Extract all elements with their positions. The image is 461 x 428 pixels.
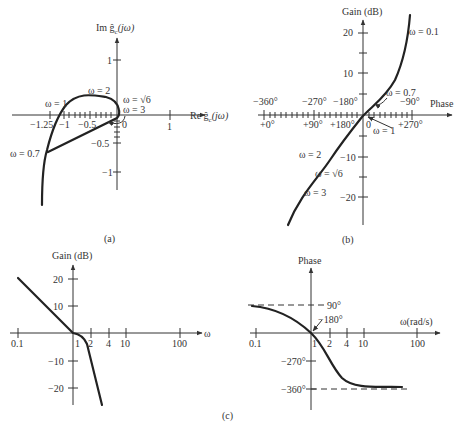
tick-label: 0.1: [11, 338, 24, 349]
panel-b-caption: (b): [342, 234, 354, 246]
tick-label: +90°: [303, 119, 323, 130]
annotation-omega-3: ω = 3: [304, 187, 326, 198]
tick-label: 1: [107, 55, 112, 66]
panel-a-nyquist-curve: [42, 95, 119, 205]
annotation-omega-2: ω = 2: [299, 149, 321, 160]
figure-canvas: Im ĝc(jω) Re ĝc(jω) −1.25 −1 −0.5 0 1 1 …: [0, 0, 461, 428]
annotation-omega-1: ω = 1: [373, 125, 395, 136]
panel-a-x-label: Re ĝc(jω): [190, 110, 229, 124]
tick-label: −180°: [318, 314, 343, 325]
tick-label: 1: [75, 338, 80, 349]
annotation-omega-0-1: ω = 0.1: [409, 26, 439, 37]
tick-label: −1: [59, 119, 70, 130]
tick-label: 4: [344, 338, 349, 349]
tick-label: −270°: [302, 96, 327, 107]
tick-label: −180°: [333, 96, 358, 107]
annotation-omega-3: ω = 3: [123, 104, 145, 115]
tick-label: −270°: [281, 356, 306, 367]
tick-label: 10: [358, 338, 368, 349]
panel-c-bode-phase: Phase ω(rad/s) 90° −180° −270° −360° 0.1…: [248, 255, 440, 410]
tick-label: −0.5: [78, 119, 96, 130]
annotation-omega-1: ω = 1: [45, 98, 67, 109]
tick-label: −1: [102, 167, 113, 178]
panel-b-nichols: Gain (dB) Phase 20 10 −10 −20 −360° −270…: [253, 6, 454, 246]
tick-label: +180°: [330, 119, 355, 130]
annotation-omega-0-7: ω = 0.7: [386, 87, 416, 98]
tick-label: 2: [327, 338, 332, 349]
tick-label: −0.5: [91, 138, 109, 149]
panel-a-caption: (a): [104, 233, 115, 245]
tick-label: 100: [172, 338, 187, 349]
tick-label: +270°: [398, 119, 423, 130]
panel-c-phase-x-label: ω(rad/s): [400, 316, 433, 328]
tick-label: −20: [48, 383, 64, 394]
panel-c-gain-y-label: Gain (dB): [52, 250, 92, 262]
panel-a-nyquist: Im ĝc(jω) Re ĝc(jω) −1.25 −1 −0.5 0 1 1 …: [10, 22, 229, 245]
tick-label: 0.1: [249, 338, 262, 349]
panel-c-phase-y-label: Phase: [298, 255, 322, 266]
tick-label: −10: [340, 152, 356, 163]
tick-label: −10: [48, 356, 64, 367]
tick-label: 90°: [327, 300, 341, 311]
tick-label: −20: [340, 192, 356, 203]
panel-b-y-label: Gain (dB): [342, 6, 382, 18]
tick-label: −360°: [281, 384, 306, 395]
annotation-omega-0-7: ω = 0.7: [10, 148, 40, 159]
tick-label: 10: [53, 301, 63, 312]
annotation-omega-2: ω = 2: [88, 85, 110, 96]
tick-label: −360°: [253, 96, 278, 107]
tick-label: −1.25: [30, 119, 53, 130]
panel-b-x-label: Phase: [430, 98, 454, 109]
tick-label: 100: [410, 338, 425, 349]
panel-c-bode-gain: Gain (dB) ω 20 10 −10 −20 0.1 1 2 4 10 1…: [10, 250, 211, 405]
tick-label: +0°: [260, 119, 275, 130]
tick-label: 10: [343, 68, 353, 79]
tick-label: 20: [343, 27, 353, 38]
tick-label: 10: [120, 338, 130, 349]
panel-c-gain-x-label: ω: [204, 328, 211, 339]
tick-label: 0: [366, 119, 371, 130]
tick-label: 1: [167, 121, 172, 132]
panel-a-y-label: Im ĝc(jω): [96, 22, 135, 36]
tick-label: 20: [53, 274, 63, 285]
tick-label: 4: [106, 338, 111, 349]
annotation-omega-sqrt6: ω = √6: [315, 168, 343, 179]
panel-c-caption: (c): [222, 410, 233, 422]
